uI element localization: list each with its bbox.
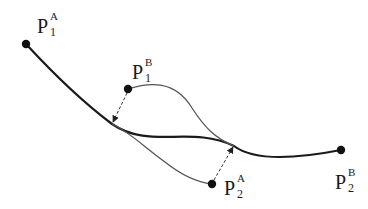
point-p1b (124, 85, 132, 93)
point-p2b (337, 146, 345, 154)
label-p2a: P 2 A (224, 172, 245, 201)
label-p2b-superscript: B (348, 166, 355, 178)
label-p2a-subscript: 2 (237, 187, 243, 201)
label-p2b: P 2 B (335, 166, 355, 195)
label-p2a-base: P (224, 177, 235, 199)
label-p1b-base: P (132, 61, 143, 83)
label-p2b-base: P (335, 171, 346, 193)
label-p1a: P 1 A (37, 10, 58, 39)
arrow-p1b-to-curve-a (113, 93, 127, 122)
label-p1a-base: P (37, 15, 48, 37)
label-p1b: P 1 B (132, 56, 152, 85)
point-p2a (208, 180, 216, 188)
label-p1b-superscript: B (145, 56, 152, 68)
curve-a (26, 44, 341, 157)
label-p1b-subscript: 1 (145, 71, 151, 85)
curve-b-lower (112, 124, 212, 184)
curve-matching-diagram: P 1 A P 1 B P 2 A P 2 B (0, 0, 368, 209)
label-p1a-subscript: 1 (50, 25, 56, 39)
label-p1a-superscript: A (50, 10, 58, 22)
arrow-p2a-to-curve-a (214, 147, 233, 180)
label-p2b-subscript: 2 (348, 181, 354, 195)
label-p2a-superscript: A (237, 172, 245, 184)
point-p1a (22, 40, 30, 48)
